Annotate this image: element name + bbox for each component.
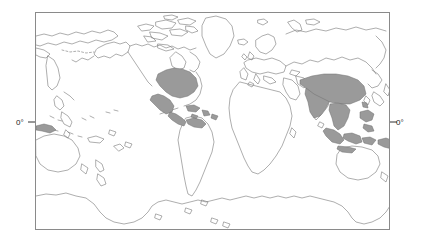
equator-label-right: 0° <box>396 118 404 127</box>
equator-label-left: 0° <box>16 118 24 127</box>
world-distribution-map: 0° 0° <box>0 0 424 243</box>
range-taiwan <box>362 102 368 108</box>
map-svg: 0° 0° <box>0 0 424 243</box>
